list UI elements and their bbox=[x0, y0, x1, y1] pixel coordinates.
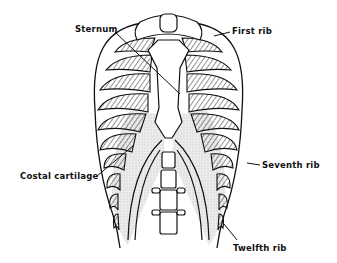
first-rib-arch bbox=[135, 14, 202, 40]
label-sternum: Sternum bbox=[75, 24, 118, 34]
label-twelfth-rib: Twelfth rib bbox=[233, 243, 287, 253]
label-first-rib: First rib bbox=[232, 26, 272, 36]
label-seventh-rib: Seventh rib bbox=[262, 160, 320, 170]
leader-twelfth-rib bbox=[224, 224, 237, 240]
rib-cage-diagram bbox=[0, 0, 337, 263]
leader-seventh-rib bbox=[247, 163, 260, 165]
leader-first-rib bbox=[214, 32, 230, 36]
label-costal-cartilage: Costal cartilage bbox=[20, 171, 98, 181]
